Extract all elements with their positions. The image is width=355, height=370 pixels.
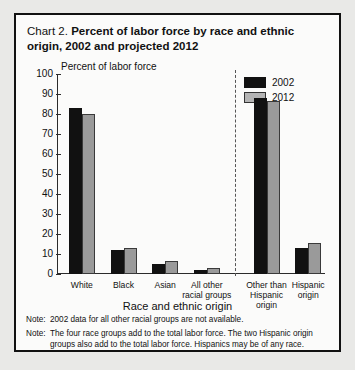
x-axis-line	[57, 273, 325, 274]
y-axis-tick	[56, 194, 61, 195]
y-axis-caption: Percent of labor force	[61, 61, 157, 72]
y-axis-tick-label: 0	[13, 268, 53, 279]
y-axis-tick-label: 100	[13, 68, 53, 79]
bar-2002-hispanic-origin	[295, 248, 308, 274]
note-item: Note: The four race groups add to the to…	[26, 328, 334, 350]
y-axis-tick	[56, 174, 61, 175]
x-axis-label-all-other-racial-groups: All other racial groups	[180, 280, 234, 300]
bar-2002-all-other-racial-groups	[194, 270, 207, 274]
note-text: The four race groups add to the total la…	[50, 328, 334, 350]
y-axis-tick-label: 10	[13, 248, 53, 259]
bar-2002-white	[69, 108, 82, 274]
bar-2012-all-other-racial-groups	[207, 268, 220, 274]
bar-2012-other-than-hispanic-origin	[267, 101, 280, 274]
y-axis-tick-label: 50	[13, 168, 53, 179]
title-main: Percent of labor force by race and ethni…	[27, 25, 294, 52]
bar-2002-other-than-hispanic-origin	[254, 98, 267, 274]
plot-area: 1009080706050403020100 WhiteBlackAsianAl…	[57, 74, 325, 274]
bar-2012-black	[124, 248, 137, 274]
note-item: Note: 2002 data for all other racial gro…	[26, 314, 334, 325]
y-axis-tick	[56, 134, 61, 135]
x-axis-label-hispanic-origin: Hispanic origin	[281, 280, 335, 300]
title-prefix: Chart 2.	[27, 25, 68, 37]
group-divider	[235, 70, 236, 276]
y-axis-tick-label: 40	[13, 188, 53, 199]
bar-2002-black	[111, 250, 124, 274]
y-axis-tick-label: 90	[13, 88, 53, 99]
y-axis-tick-label: 60	[13, 148, 53, 159]
y-axis-tick	[56, 114, 61, 115]
bar-2002-asian	[152, 264, 165, 274]
y-axis-tick	[56, 214, 61, 215]
chart-frame: Chart 2. Percent of labor force by race …	[14, 13, 341, 352]
y-axis-tick-label: 70	[13, 128, 53, 139]
y-axis-tick-label: 80	[13, 108, 53, 119]
y-axis-tick-label: 30	[13, 208, 53, 219]
chart-notes: Note: 2002 data for all other racial gro…	[26, 314, 334, 353]
note-tag: Note:	[26, 328, 50, 350]
note-text: 2002 data for all other racial groups ar…	[50, 314, 334, 325]
y-axis-tick	[56, 274, 61, 275]
page-title: Chart 2. Percent of labor force by race …	[27, 24, 327, 54]
y-axis-tick	[56, 234, 61, 235]
bar-2012-white	[82, 114, 95, 274]
bar-2012-asian	[165, 261, 178, 274]
y-axis-tick-label: 20	[13, 228, 53, 239]
x-axis-title: Race and ethnic origin	[16, 300, 339, 312]
note-tag: Note:	[26, 314, 50, 325]
bar-2012-hispanic-origin	[308, 243, 321, 274]
y-axis-tick	[56, 94, 61, 95]
y-axis-tick	[56, 154, 61, 155]
y-axis-tick	[56, 254, 61, 255]
y-axis-tick	[56, 74, 61, 75]
